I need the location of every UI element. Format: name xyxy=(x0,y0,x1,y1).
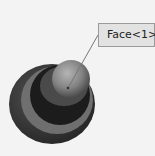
3d-viewport[interactable]: Face<1> xyxy=(0,0,155,156)
face-callout-label[interactable]: Face<1> xyxy=(98,23,155,47)
face-1-dome[interactable] xyxy=(52,60,90,98)
callout-text: Face<1> xyxy=(107,28,155,41)
leader-anchor-dot xyxy=(67,87,70,90)
